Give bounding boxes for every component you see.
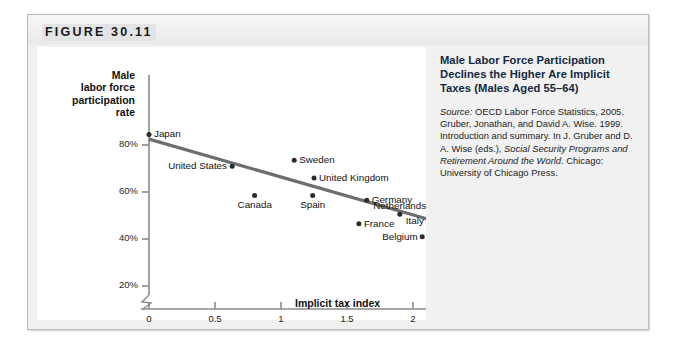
data-point [397,212,402,217]
scatter-chart [37,47,426,320]
data-point-label: United Kingdom [319,172,389,183]
y-tick-label: 40% [103,232,138,243]
data-point [230,164,235,169]
data-point-label: Italy [406,215,424,226]
data-point-label: Belgium [382,231,417,242]
data-point-label: Spain [300,199,325,210]
data-point-label: Canada [238,199,272,210]
data-point [312,175,317,180]
data-point-label: Sweden [299,154,334,165]
data-point [364,198,369,203]
data-point-label: United States [168,160,227,171]
data-point [356,221,361,226]
caption-title: Male Labor Force Participation Declines … [440,53,636,96]
data-point [420,234,425,239]
figure-box: FIGURE 30.11 Malelabor forceparticipatio… [27,14,649,330]
caption-source: Source: OECD Labor Force Statistics, 200… [440,106,636,180]
data-point [252,193,257,198]
y-tick-label: 60% [103,185,138,196]
caption-column: Male Labor Force Participation Declines … [440,53,636,179]
figure-page: FIGURE 30.11 Malelabor forceparticipatio… [0,0,676,360]
x-tick-label: 1.5 [327,313,367,324]
figure-number-label: FIGURE 30.11 [42,24,156,41]
data-point [292,158,297,163]
chart-plot-panel: Malelabor forceparticipationrate Implici… [37,47,426,320]
x-tick-label: 0 [129,313,169,324]
data-point [310,193,315,198]
data-point [147,132,152,137]
y-tick-label: 20% [103,279,138,290]
x-tick-label: 1 [261,313,301,324]
data-point-label: France [364,218,395,229]
y-tick-label: 80% [103,138,138,149]
data-point-label: Japan [154,128,181,139]
x-tick-label: 0.5 [195,313,235,324]
data-point-label: Netherlands [373,200,426,211]
x-tick-label: 2 [393,313,433,324]
source-lead: Source: [440,106,472,117]
x-axis-title: Implicit tax index [295,297,380,309]
